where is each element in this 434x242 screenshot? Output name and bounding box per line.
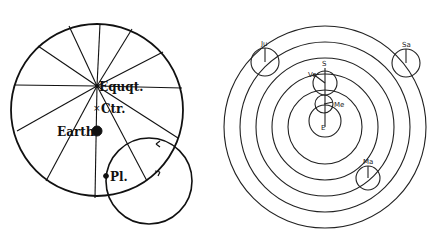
planet-point: [104, 174, 109, 179]
mars-label: Ma: [363, 158, 373, 166]
mercury-label: Me: [334, 101, 344, 109]
venus-label: Ve: [308, 71, 317, 79]
center-cross-icon: ×: [93, 103, 101, 113]
left-diagram: ×: [11, 24, 192, 224]
epicycle-arrow-icon: [156, 141, 160, 147]
center-label: Ctr.: [101, 102, 126, 116]
figure-canvas: × Equqt. Ctr. Earth Pl. E S Me Ve Ju: [0, 0, 434, 242]
planet-label: Pl.: [110, 170, 128, 184]
jupiter-label: Ju: [260, 40, 268, 48]
sun-label: S: [322, 60, 327, 68]
earth-label: Earth: [57, 125, 95, 139]
earth-label-e: E: [321, 124, 325, 132]
equant-label: Equqt.: [99, 80, 143, 94]
saturn-label: Sa: [402, 41, 411, 49]
